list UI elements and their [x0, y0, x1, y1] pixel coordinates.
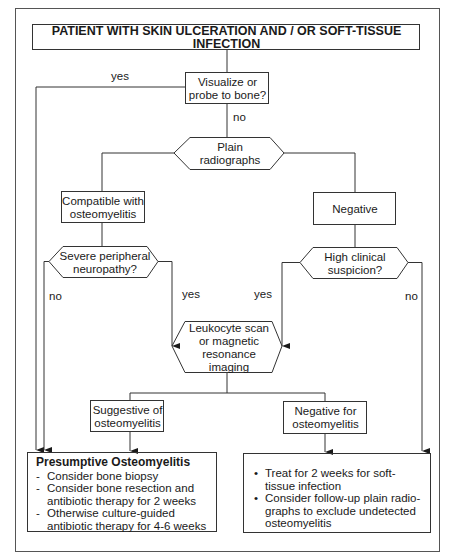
outcome-left-item: -Consider bone resection and antibiotic …: [36, 482, 216, 507]
connector-neuropathy-yes: [158, 262, 172, 347]
outcome-left-heading: Presumptive Osteomyelitis: [36, 456, 216, 469]
outcome-right-item: •Consider follow-up plain radio-graphs t…: [254, 492, 422, 530]
edge-label-suspicion-yes: yes: [254, 288, 272, 301]
node-suggestive: Suggestive of osteomyelitis: [91, 401, 164, 432]
outcome-left-list: -Consider bone biopsy -Consider bone res…: [36, 470, 216, 533]
outcome-left-item: -Otherwise culture-guided antibiotic the…: [36, 507, 216, 532]
edge-label-neuropathy-no: no: [49, 290, 62, 303]
bullet-marker: •: [254, 492, 258, 505]
outcome-left-item: -Consider bone biopsy: [36, 470, 216, 483]
connector-branch: [130, 393, 325, 401]
outcome-right-item-text: Consider follow-up plain radio-graphs to…: [265, 492, 420, 529]
edge-label-visualize-no: no: [233, 111, 246, 124]
outcome-left: Presumptive Osteomyelitis -Consider bone…: [36, 456, 216, 532]
node-leukocyte: Leukocyte scan or magnetic resonance ima…: [184, 322, 274, 373]
node-negative-for: Negative for osteomyelitis: [284, 402, 367, 434]
edge-label-neuropathy-yes: yes: [182, 288, 200, 301]
outcome-right-item: •Treat for 2 weeks for soft-tissue infec…: [254, 467, 422, 492]
dash-marker: -: [36, 470, 40, 483]
dash-marker: -: [36, 482, 40, 495]
outcome-left-item-text: Consider bone resection and antibiotic t…: [47, 482, 196, 507]
outcome-right: •Treat for 2 weeks for soft-tissue infec…: [254, 467, 422, 530]
outcome-left-item-text: Consider bone biopsy: [47, 470, 158, 482]
node-suspicion: High clinical suspicion?: [318, 248, 392, 279]
outcome-left-item-text: Otherwise culture-guided antibiotic ther…: [47, 507, 206, 532]
connector-plain-negative: [284, 153, 355, 192]
outcome-right-list: •Treat for 2 weeks for soft-tissue infec…: [254, 467, 422, 530]
node-negative: Negative: [314, 193, 396, 225]
node-compatible: Compatible with osteomyelitis: [60, 192, 146, 223]
title-text: PATIENT WITH SKIN ULCERATION AND / OR SO…: [33, 25, 420, 50]
bullet-marker: •: [254, 467, 258, 480]
outcome-right-item-text: Treat for 2 weeks for soft-tissue infect…: [265, 467, 396, 492]
node-visualize: Visualize or probe to bone?: [186, 73, 269, 104]
node-neuropathy: Severe peripheral neuropathy?: [56, 247, 154, 278]
connector-plain-compatible: [102, 153, 174, 191]
node-plain-radiographs: Plain radiographs: [188, 138, 272, 170]
edge-label-visualize-yes: yes: [111, 70, 129, 83]
dash-marker: -: [36, 507, 40, 520]
edge-label-suspicion-no: no: [405, 290, 418, 303]
connector-suspicion-yes: [282, 263, 300, 347]
